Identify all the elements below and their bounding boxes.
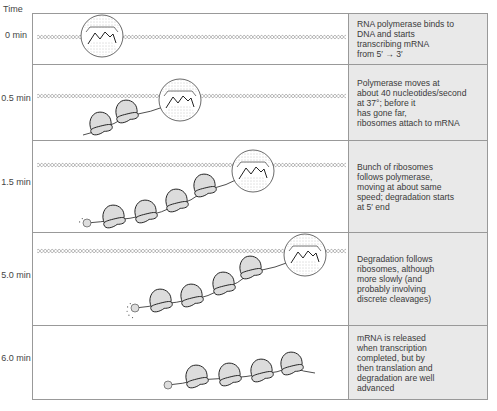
transcription-scene bbox=[33, 65, 348, 141]
step-description: Degradation follows ribosomes, although … bbox=[348, 233, 488, 325]
ribosome-icon bbox=[216, 361, 243, 387]
transcription-scene bbox=[33, 326, 348, 399]
ribosome-icon bbox=[210, 270, 237, 296]
timeline-row-2: 1.5 min Bunch of ribosomes follows polym… bbox=[33, 141, 488, 233]
rna-polymerase-icon bbox=[81, 15, 123, 57]
degraded-nucleotide bbox=[131, 304, 139, 312]
ribosome-icon bbox=[132, 198, 159, 224]
degraded-nucleotide bbox=[164, 381, 172, 389]
degraded-nucleotide bbox=[83, 219, 91, 227]
rna-polymerase-icon bbox=[232, 150, 274, 192]
time-label: 5.0 min bbox=[1, 270, 31, 280]
ribosome-icon bbox=[147, 287, 174, 313]
ribosome-icon bbox=[191, 172, 218, 198]
transcription-timeline-table: 0 min RNA polymerase binds to DNA and st… bbox=[32, 13, 488, 400]
nucleotide-fragment bbox=[127, 311, 128, 312]
nucleotide-fragment bbox=[132, 317, 133, 318]
time-label: 0.5 min bbox=[1, 93, 31, 103]
time-label: 0 min bbox=[1, 30, 31, 40]
timeline-row-3: 5.0 min Degradation follows ribosomes, a… bbox=[33, 233, 488, 326]
step-description: RNA polymerase binds to DNA and starts t… bbox=[348, 14, 488, 64]
time-label: 6.0 min bbox=[1, 353, 31, 363]
step-description: Polymerase moves at about 40 nucleotides… bbox=[348, 65, 488, 140]
timeline-row-1: 0.5 min Polymerase moves at about 40 nuc… bbox=[33, 65, 488, 141]
ribosome-icon bbox=[183, 363, 210, 389]
ribosome-icon bbox=[178, 282, 205, 308]
nucleotide-fragment bbox=[128, 315, 129, 316]
step-description: Bunch of ribosomes follows polymerase, m… bbox=[348, 141, 488, 232]
timeline-row-4: 6.0 min mRNA is released when transcript… bbox=[33, 326, 488, 399]
transcription-scene bbox=[33, 233, 348, 326]
rna-polymerase-icon bbox=[284, 234, 326, 276]
time-axis-label: Time bbox=[3, 4, 23, 14]
transcription-scene bbox=[33, 14, 348, 65]
ribosome-icon bbox=[113, 98, 140, 124]
transcription-scene bbox=[33, 141, 348, 233]
ribosome-icon bbox=[100, 203, 127, 229]
rna-polymerase-icon bbox=[159, 79, 201, 121]
nucleotide-fragment bbox=[130, 303, 131, 304]
ribosome-icon bbox=[163, 187, 190, 213]
timeline-row-0: 0 min RNA polymerase binds to DNA and st… bbox=[33, 14, 488, 65]
step-description: mRNA is released when transcription comp… bbox=[348, 326, 488, 399]
nucleotide-fragment bbox=[79, 221, 80, 222]
time-label: 1.5 min bbox=[1, 177, 31, 187]
ribosome-icon bbox=[278, 350, 305, 376]
ribosome-icon bbox=[87, 110, 114, 136]
nucleotide-fragment bbox=[127, 306, 128, 307]
ribosome-icon bbox=[237, 254, 264, 280]
ribosome-icon bbox=[248, 357, 275, 383]
nucleotide-fragment bbox=[82, 218, 83, 219]
